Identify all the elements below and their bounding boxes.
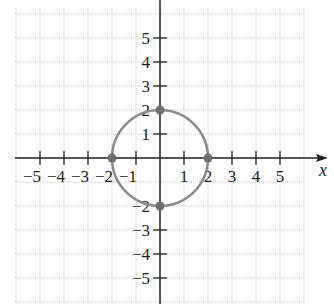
x-tick-label: 3 — [228, 167, 237, 186]
x-tick-label: 5 — [276, 167, 285, 186]
x-tick-label: −3 — [71, 167, 89, 186]
data-point — [156, 106, 165, 115]
data-point — [108, 154, 117, 163]
y-tick-label: 3 — [142, 77, 151, 96]
x-tick-label: −2 — [95, 167, 113, 186]
x-tick-label: 1 — [180, 167, 189, 186]
x-tick-label: −4 — [47, 167, 66, 186]
x-tick-label: −1 — [119, 167, 137, 186]
y-tick-label: 1 — [142, 125, 151, 144]
x-axis-label: x — [318, 160, 327, 180]
data-point — [204, 154, 213, 163]
coordinate-plane: −5−4−3−2−112345−5−4−3−212345 x — [0, 0, 334, 304]
y-tick-label: 5 — [142, 29, 151, 48]
x-tick-label: −5 — [23, 167, 41, 186]
y-tick-label: 4 — [142, 53, 151, 72]
axes — [15, 0, 328, 304]
data-point — [156, 202, 165, 211]
y-tick-label: −5 — [132, 269, 150, 288]
x-tick-label: 4 — [252, 167, 261, 186]
y-tick-label: −3 — [132, 221, 150, 240]
y-tick-label: −4 — [132, 245, 151, 264]
